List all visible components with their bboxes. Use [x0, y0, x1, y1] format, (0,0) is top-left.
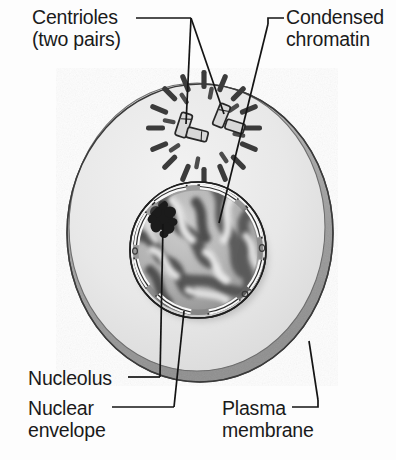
label-nucleolus: Nucleolus: [28, 367, 112, 389]
leader-chromatin-stub: [268, 18, 284, 24]
label-nuclear-envelope: Nuclear envelope: [28, 397, 106, 441]
diagram-page: Centrioles (two pairs) Condensed chromat…: [0, 0, 396, 460]
label-condensed-chromatin: Condensed chromatin: [286, 6, 384, 50]
label-plasma-membrane: Plasma membrane: [222, 397, 314, 441]
leader-plasma-membrane: [309, 341, 318, 400]
label-centrioles: Centrioles (two pairs): [32, 6, 121, 50]
cell-diagram-figure: [0, 0, 396, 460]
